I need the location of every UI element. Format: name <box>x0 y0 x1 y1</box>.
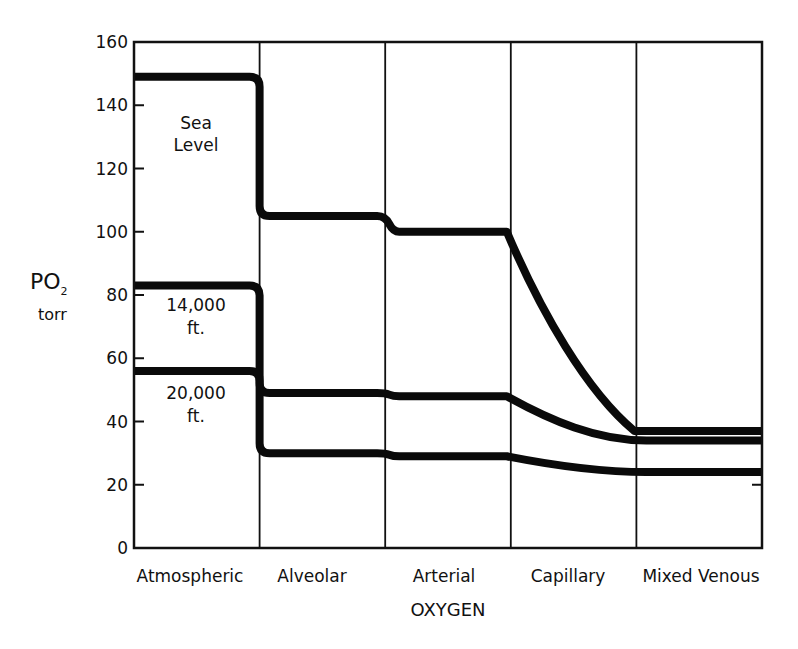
y-axis-unit: torr <box>38 305 67 324</box>
y-axis-label: PO2 <box>30 269 68 298</box>
category-label: Atmospheric <box>137 566 244 586</box>
y-tick-label: 100 <box>96 222 128 242</box>
x-axis-label: OXYGEN <box>410 599 485 620</box>
series-curves <box>134 77 762 472</box>
y-tick-label: 120 <box>96 159 128 179</box>
series-label-2: 14,000ft. <box>166 295 225 338</box>
category-dividers <box>260 42 637 548</box>
y-tick-label: 80 <box>106 285 128 305</box>
series-label-1: SeaLevel <box>174 113 219 155</box>
series-label-3: 20,000ft. <box>166 383 225 426</box>
y-tick-label: 40 <box>106 412 128 432</box>
category-label: Alveolar <box>277 566 346 586</box>
category-label: Capillary <box>531 566 606 586</box>
y-tick-label: 60 <box>106 348 128 368</box>
y-tick-label: 20 <box>106 475 128 495</box>
series-curve-1 <box>134 77 762 431</box>
category-label: Arterial <box>413 566 476 586</box>
y-tick-label: 160 <box>96 32 128 52</box>
category-label: Mixed Venous <box>642 566 759 586</box>
y-tick-label: 140 <box>96 95 128 115</box>
series-curve-3 <box>134 371 762 472</box>
x-axis-categories: AtmosphericAlveolarArterialCapillaryMixe… <box>137 566 760 586</box>
y-tick-label: 0 <box>117 538 128 558</box>
series-curve-2 <box>134 286 762 441</box>
po2-altitude-chart: 020406080100120140160 AtmosphericAlveola… <box>0 0 798 649</box>
series-labels: SeaLevel14,000ft.20,000ft. <box>166 113 225 426</box>
